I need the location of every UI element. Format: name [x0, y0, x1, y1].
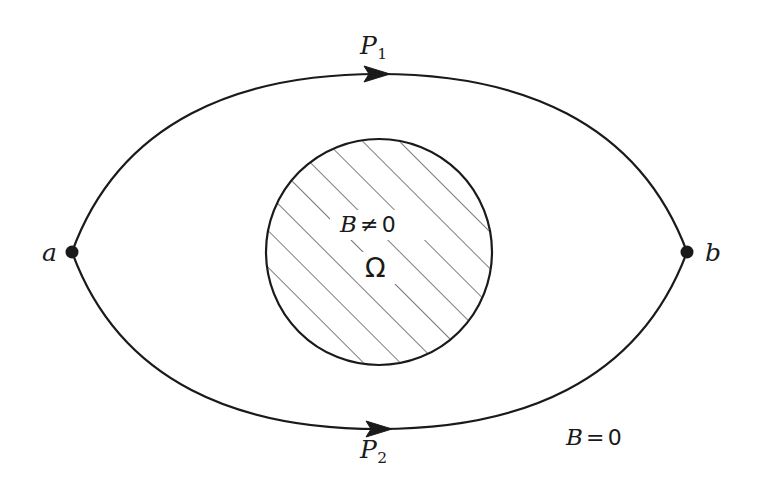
path-label-p2: P2 — [360, 437, 387, 466]
endpoint-dot-b — [681, 246, 694, 259]
path-label-p2-symbol: P — [360, 435, 377, 464]
omega-region-label: Ω — [365, 254, 386, 281]
figure-root: a b P1 P2 B≠0 Ω B=0 — [0, 0, 759, 493]
endpoint-dot-a — [66, 246, 79, 259]
endpoint-label-b: b — [705, 240, 721, 265]
endpoint-label-a: a — [42, 240, 57, 265]
path-label-p1: P1 — [360, 33, 387, 62]
diagram-canvas — [0, 0, 759, 493]
outer-field-operator: = — [586, 425, 605, 450]
inner-field-value: 0 — [382, 212, 396, 237]
path-label-p1-subscript: 1 — [377, 45, 387, 63]
inner-field-operator: ≠ — [360, 212, 379, 237]
inner-field-label: B≠0 — [340, 213, 396, 236]
path-label-p1-symbol: P — [360, 31, 377, 60]
outer-field-label: B=0 — [566, 426, 622, 449]
path-label-p2-subscript: 2 — [377, 449, 387, 467]
outer-field-value: 0 — [608, 425, 622, 450]
inner-field-symbol: B — [340, 211, 357, 237]
outer-field-symbol: B — [566, 424, 583, 450]
